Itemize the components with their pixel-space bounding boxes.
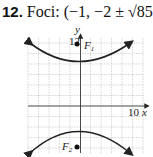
y-axis-label: y [74, 23, 80, 35]
focus-f1 [75, 42, 80, 47]
upper-branch [30, 43, 130, 62]
x-tick-10: 10 [128, 106, 140, 118]
focus-f2-label: F2 [61, 140, 73, 154]
hyperbola-graph: y 12 10 x F1 F2 [0, 0, 153, 157]
x-axis-label: x [141, 106, 147, 118]
lower-branch [30, 132, 130, 154]
focus-f1-label: F1 [83, 39, 94, 53]
grid [28, 38, 143, 153]
focus-f2 [75, 145, 80, 150]
